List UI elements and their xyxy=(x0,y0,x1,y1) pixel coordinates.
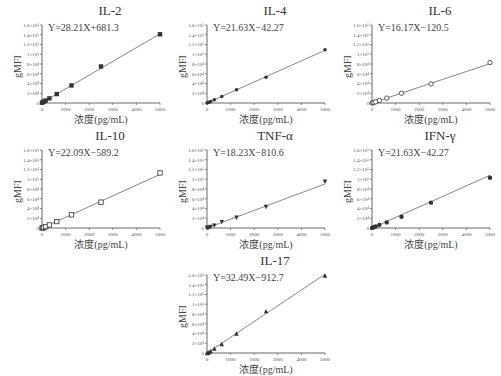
svg-text:4×10⁴: 4×10⁴ xyxy=(357,206,369,211)
svg-text:4×10⁴: 4×10⁴ xyxy=(27,206,39,211)
svg-text:8×10⁴: 8×10⁴ xyxy=(192,62,204,67)
svg-text:5000: 5000 xyxy=(320,357,331,362)
chart-panel-il6: 02×10⁴4×10⁴6×10⁴8×10⁴1×10⁵1.2×10⁵1.4×10⁵… xyxy=(330,0,495,125)
svg-text:4×10⁴: 4×10⁴ xyxy=(357,81,369,86)
y-axis-label: gMFI xyxy=(12,180,23,203)
chart-title: IL-10 xyxy=(95,128,125,144)
chart-panel-il4: 02×10⁴4×10⁴6×10⁴8×10⁴1×10⁵1.2×10⁵1.4×10⁵… xyxy=(165,0,330,125)
svg-text:1×10⁵: 1×10⁵ xyxy=(192,302,204,307)
svg-text:5000: 5000 xyxy=(320,107,331,112)
plot-area: 02×10⁴4×10⁴6×10⁴8×10⁴1×10⁵1.2×10⁵1.4×10⁵… xyxy=(0,0,165,125)
svg-text:1.6×10⁵: 1.6×10⁵ xyxy=(23,23,39,28)
chart-title: IL-2 xyxy=(98,3,121,19)
svg-text:4000: 4000 xyxy=(461,107,472,112)
svg-text:2×10⁴: 2×10⁴ xyxy=(27,216,39,221)
svg-text:1×10⁵: 1×10⁵ xyxy=(357,177,369,182)
svg-text:5000: 5000 xyxy=(485,232,496,237)
y-axis-label: gMFI xyxy=(177,55,188,78)
svg-text:1×10⁵: 1×10⁵ xyxy=(27,177,39,182)
svg-text:4000: 4000 xyxy=(296,107,307,112)
svg-text:1000: 1000 xyxy=(391,232,402,237)
svg-text:1.2×10⁵: 1.2×10⁵ xyxy=(188,167,204,172)
svg-text:2×10⁴: 2×10⁴ xyxy=(192,91,204,96)
svg-text:1.6×10⁵: 1.6×10⁵ xyxy=(188,23,204,28)
svg-text:8×10⁴: 8×10⁴ xyxy=(192,312,204,317)
fit-line xyxy=(207,274,325,353)
svg-text:4000: 4000 xyxy=(461,232,472,237)
svg-text:0: 0 xyxy=(206,357,209,362)
svg-text:6×10⁴: 6×10⁴ xyxy=(192,72,204,77)
svg-text:1.4×10⁵: 1.4×10⁵ xyxy=(188,158,204,163)
svg-text:1.4×10⁵: 1.4×10⁵ xyxy=(23,158,39,163)
regression-equation: Y=18.23X−810.6 xyxy=(213,147,284,158)
chart-panel-il17: 02×10⁴4×10⁴6×10⁴8×10⁴1×10⁵1.2×10⁵1.4×10⁵… xyxy=(165,250,330,375)
svg-text:1.2×10⁵: 1.2×10⁵ xyxy=(23,42,39,47)
svg-text:6×10⁴: 6×10⁴ xyxy=(192,197,204,202)
svg-text:0: 0 xyxy=(202,226,205,231)
plot-area: 02×10⁴4×10⁴6×10⁴8×10⁴1×10⁵1.2×10⁵1.4×10⁵… xyxy=(165,0,330,125)
svg-text:1000: 1000 xyxy=(226,357,237,362)
svg-text:0: 0 xyxy=(371,107,374,112)
svg-text:1.4×10⁵: 1.4×10⁵ xyxy=(188,283,204,288)
svg-text:5000: 5000 xyxy=(155,232,166,237)
svg-text:2×10⁴: 2×10⁴ xyxy=(357,216,369,221)
chart-panel-tnf: 02×10⁴4×10⁴6×10⁴8×10⁴1×10⁵1.2×10⁵1.4×10⁵… xyxy=(165,125,330,250)
svg-text:4000: 4000 xyxy=(131,232,142,237)
svg-text:1.6×10⁵: 1.6×10⁵ xyxy=(188,148,204,153)
regression-equation: Y=22.09X−589.2 xyxy=(48,147,119,158)
y-axis-label: gMFI xyxy=(177,305,188,328)
x-axis-label: 浓度(pg/mL) xyxy=(239,111,292,126)
svg-text:1.4×10⁵: 1.4×10⁵ xyxy=(353,33,369,38)
svg-text:1.6×10⁵: 1.6×10⁵ xyxy=(23,148,39,153)
x-axis-label: 浓度(pg/mL) xyxy=(74,111,127,126)
chart-panel-il10: 02×10⁴4×10⁴6×10⁴8×10⁴1×10⁵1.2×10⁵1.4×10⁵… xyxy=(0,125,165,250)
svg-text:6×10⁴: 6×10⁴ xyxy=(27,197,39,202)
svg-text:4×10⁴: 4×10⁴ xyxy=(192,331,204,336)
svg-text:0: 0 xyxy=(202,351,205,356)
svg-text:1000: 1000 xyxy=(226,107,237,112)
svg-text:1×10⁵: 1×10⁵ xyxy=(192,52,204,57)
svg-text:5000: 5000 xyxy=(485,107,496,112)
svg-text:0: 0 xyxy=(367,101,370,106)
y-axis-label: gMFI xyxy=(342,180,353,203)
svg-text:4×10⁴: 4×10⁴ xyxy=(192,206,204,211)
svg-text:8×10⁴: 8×10⁴ xyxy=(27,62,39,67)
svg-text:6×10⁴: 6×10⁴ xyxy=(357,197,369,202)
svg-text:1×10⁵: 1×10⁵ xyxy=(357,52,369,57)
plot-area: 02×10⁴4×10⁴6×10⁴8×10⁴1×10⁵1.2×10⁵1.4×10⁵… xyxy=(330,125,495,250)
svg-text:5000: 5000 xyxy=(320,232,331,237)
svg-text:1×10⁵: 1×10⁵ xyxy=(192,177,204,182)
regression-equation: Y=16.17X−120.5 xyxy=(378,22,449,33)
svg-text:0: 0 xyxy=(371,232,374,237)
svg-text:4000: 4000 xyxy=(296,232,307,237)
plot-area: 02×10⁴4×10⁴6×10⁴8×10⁴1×10⁵1.2×10⁵1.4×10⁵… xyxy=(165,250,330,375)
regression-equation: Y=21.63X−42.27 xyxy=(378,147,449,158)
plot-area: 02×10⁴4×10⁴6×10⁴8×10⁴1×10⁵1.2×10⁵1.4×10⁵… xyxy=(0,125,165,250)
svg-text:6×10⁴: 6×10⁴ xyxy=(357,72,369,77)
y-axis-label: gMFI xyxy=(12,55,23,78)
plot-area: 02×10⁴4×10⁴6×10⁴8×10⁴1×10⁵1.2×10⁵1.4×10⁵… xyxy=(165,125,330,250)
svg-text:1.2×10⁵: 1.2×10⁵ xyxy=(23,167,39,172)
x-axis-label: 浓度(pg/mL) xyxy=(404,111,457,126)
y-axis-label: gMFI xyxy=(177,180,188,203)
svg-text:1.4×10⁵: 1.4×10⁵ xyxy=(188,33,204,38)
svg-text:1.2×10⁵: 1.2×10⁵ xyxy=(188,292,204,297)
svg-text:8×10⁴: 8×10⁴ xyxy=(27,187,39,192)
y-axis-label: gMFI xyxy=(342,55,353,78)
chart-panel-ifn: 02×10⁴4×10⁴6×10⁴8×10⁴1×10⁵1.2×10⁵1.4×10⁵… xyxy=(330,125,495,250)
svg-text:8×10⁴: 8×10⁴ xyxy=(192,187,204,192)
svg-text:6×10⁴: 6×10⁴ xyxy=(192,322,204,327)
svg-text:1.6×10⁵: 1.6×10⁵ xyxy=(353,23,369,28)
svg-text:0: 0 xyxy=(367,226,370,231)
svg-text:1.2×10⁵: 1.2×10⁵ xyxy=(353,167,369,172)
chart-title: IFN-γ xyxy=(424,128,455,144)
x-axis-label: 浓度(pg/mL) xyxy=(404,236,457,251)
svg-text:1000: 1000 xyxy=(61,107,72,112)
chart-title: TNF-α xyxy=(257,128,293,144)
x-axis-label: 浓度(pg/mL) xyxy=(239,236,292,251)
svg-text:6×10⁴: 6×10⁴ xyxy=(27,72,39,77)
svg-text:1.6×10⁵: 1.6×10⁵ xyxy=(353,148,369,153)
svg-text:2×10⁴: 2×10⁴ xyxy=(192,341,204,346)
svg-text:0: 0 xyxy=(41,107,44,112)
x-axis-label: 浓度(pg/mL) xyxy=(239,361,292,376)
